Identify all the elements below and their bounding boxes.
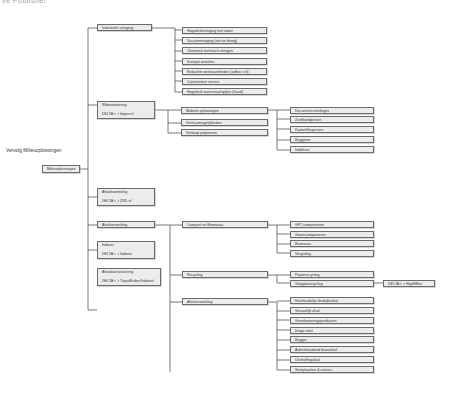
node-rec-1[interactable]: Vlakglasrecycling: [290, 280, 374, 287]
node-av-2[interactable]: Afvalverwerking: [182, 298, 268, 305]
node-label: Onsholfingafval: [295, 358, 320, 362]
node-ir-1[interactable]: Vacuümreiniging (nat en droog): [182, 37, 267, 44]
node-label: Vlakglasrecycling: [295, 282, 323, 286]
node-partner: DELTA < > Tripat/Eviber/Indover/: [102, 280, 160, 284]
node-label: Milieuoplossingen: [47, 167, 76, 171]
node-label: Kamerfilterpersen: [295, 128, 323, 132]
node-recycling-partner[interactable]: DELTA < > HighEBee: [383, 280, 435, 287]
node-label: Asbesthoudend bouwafval: [295, 348, 337, 352]
node-label: Huishoudelijk-/bedrijfsafval: [295, 299, 338, 303]
node-label: Vergisting: [295, 252, 311, 256]
diagram-title: Vervolg Milieuoplossingen: [6, 148, 61, 153]
node-label: Vacuümreiniging (nat en droog): [187, 39, 237, 43]
node-afvalwaterzuivering[interactable]: AfvalwaterzuiveringDELTA < > Tripat/Evib…: [97, 268, 161, 286]
node-av-1[interactable]: Recycling: [182, 271, 268, 278]
node-label: Verhuurmogelijkheden: [186, 121, 222, 125]
node-indover[interactable]: IndoverDELTA < > Indover: [97, 241, 155, 259]
node-afv-3[interactable]: Droge stort: [290, 327, 374, 334]
node-afv-7[interactable]: Stortplaatsen & contact: [290, 366, 374, 373]
node-label: Verkoop polymeren: [186, 131, 217, 135]
node-label: Hogedrukreiniging met water: [187, 29, 233, 33]
node-slib-1[interactable]: Verhuurmogelijkheden: [181, 119, 268, 126]
node-label: Afvalverwerking: [102, 223, 127, 227]
node-mob-2[interactable]: Kamerfilterpersen: [290, 126, 374, 133]
node-partner: DELTA < > Indover: [102, 253, 154, 257]
node-afv-1[interactable]: Gevaarlijk afval: [290, 307, 374, 314]
node-label: Chemisch technisch reinigen: [187, 49, 233, 53]
node-comp-0[interactable]: GFT-composteren: [290, 221, 374, 228]
node-rec-0[interactable]: Papierrecycling: [290, 271, 374, 278]
node-afv-6[interactable]: Onsholfingafval: [290, 356, 374, 363]
node-mob-0[interactable]: Decanteercentrifuges: [290, 107, 374, 114]
node-label: Papierrecycling: [295, 273, 320, 277]
node-label: Indikkers: [295, 148, 309, 152]
node-label: Gevaarlijk afval: [295, 309, 320, 313]
node-label: GFT-composteren: [295, 223, 324, 227]
node-mob-3[interactable]: Baggeren: [290, 136, 374, 143]
node-afv-2[interactable]: Grondsaneringsproducten: [290, 317, 374, 324]
node-slib-2[interactable]: Verkoop polymeren: [181, 129, 268, 136]
node-label: Droge stort: [295, 329, 313, 333]
node-label: Afvalinzameling: [102, 190, 127, 194]
node-afv-4[interactable]: Bagger: [290, 336, 374, 343]
node-ir-6[interactable]: Hogedruk waterstraalspijlen (fraud): [182, 88, 267, 95]
node-label: Biomassa: [295, 242, 311, 246]
node-label: Groencomposteren: [295, 233, 326, 237]
node-comp-3[interactable]: Vergisting: [290, 250, 374, 257]
node-slibontwatering[interactable]: SlibontwateringDELTA < > Impex.nl: [97, 101, 155, 119]
node-label: Beduchte werkzaamheden (adhoc crit): [187, 70, 249, 74]
node-root[interactable]: Milieuoplossingen: [42, 165, 80, 173]
node-ir-4[interactable]: Beduchte werkzaamheden (adhoc crit): [182, 68, 267, 75]
node-industriele-reiniging[interactable]: Industriële reiniging: [97, 24, 152, 31]
node-partner: DELTA < > ZRD.nl: [102, 200, 154, 204]
node-label: Compost en Biomassa: [187, 223, 223, 227]
node-comp-1[interactable]: Groencomposteren: [290, 231, 374, 238]
node-label: DELTA < > HighEBee: [388, 282, 422, 286]
node-afvalverwerking[interactable]: Afvalverwerking: [97, 221, 155, 228]
node-label: Katalyst wisselen: [187, 60, 215, 64]
node-ir-5[interactable]: Calamiteiten service: [182, 78, 267, 85]
node-label: Bagger: [295, 338, 307, 342]
node-label: Zeefbandpersen: [295, 118, 321, 122]
node-label: Industriële reiniging: [102, 26, 133, 30]
node-label: Stortplaatsen & contact: [295, 368, 332, 372]
node-label: Hogedruk waterstraalspijlen (fraud): [187, 90, 243, 94]
node-afv-0[interactable]: Huishoudelijk-/bedrijfsafval: [290, 297, 374, 304]
node-label: Baggeren: [295, 138, 311, 142]
node-label: Grondsaneringsproducten: [295, 319, 337, 323]
node-label: Indover: [102, 243, 114, 247]
node-label: Decanteercentrifuges: [295, 109, 329, 113]
node-slib-0[interactable]: Mobiele oplossingen: [181, 107, 268, 114]
node-mob-4[interactable]: Indikkers: [290, 146, 374, 153]
node-ir-0[interactable]: Hogedrukreiniging met water: [182, 27, 267, 34]
node-label: Mobiele oplossingen: [186, 109, 219, 113]
node-comp-2[interactable]: Biomassa: [290, 240, 374, 247]
node-av-0[interactable]: Compost en Biomassa: [182, 221, 268, 228]
node-label: Afvalwaterzuivering: [102, 270, 133, 274]
node-partner: DELTA < > Impex.nl: [102, 113, 154, 117]
node-label: Calamiteiten service: [187, 80, 219, 84]
node-mob-1[interactable]: Zeefbandpersen: [290, 116, 374, 123]
node-afv-5[interactable]: Asbesthoudend bouwafval: [290, 346, 374, 353]
node-label: Afvalverwerking: [187, 300, 212, 304]
node-label: Recycling: [187, 273, 203, 277]
node-afvalinzameling[interactable]: AfvalinzamelingDELTA < > ZRD.nl: [97, 188, 155, 206]
node-ir-2[interactable]: Chemisch technisch reinigen: [182, 47, 267, 54]
node-ir-3[interactable]: Katalyst wisselen: [182, 58, 267, 65]
node-label: Slibontwatering: [102, 103, 127, 107]
